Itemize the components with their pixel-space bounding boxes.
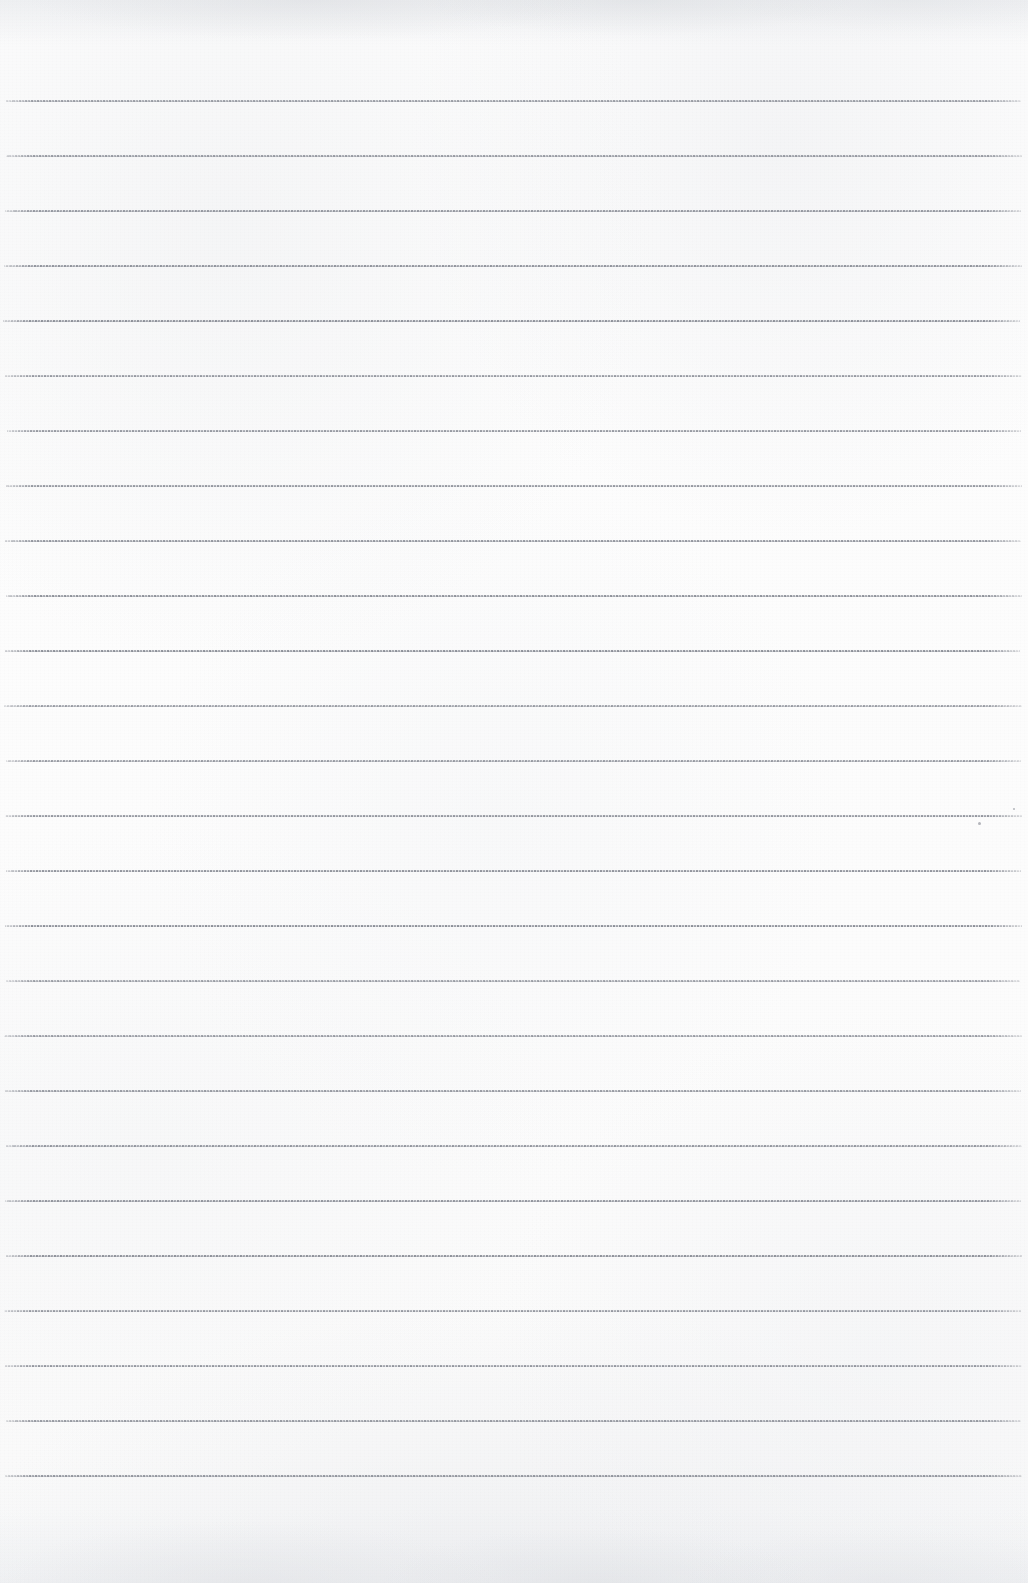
ruled-line-halo bbox=[6, 1256, 1022, 1257]
ruled-line bbox=[6, 485, 1022, 487]
ruled-line bbox=[5, 815, 1022, 817]
ruled-line-halo bbox=[6, 1421, 1021, 1422]
ruled-line bbox=[6, 155, 1022, 157]
ruled-line-ink bbox=[6, 980, 1020, 982]
ruled-line-halo bbox=[6, 761, 1021, 762]
ruled-line-halo bbox=[6, 596, 1022, 597]
ruled-line-ink bbox=[6, 760, 1021, 762]
ruled-line bbox=[5, 925, 1022, 927]
ruled-line-ink bbox=[5, 540, 1021, 542]
ruled-line bbox=[6, 760, 1021, 762]
ruled-line-halo bbox=[5, 651, 1020, 652]
ruled-line bbox=[6, 1255, 1022, 1257]
ruled-line-halo bbox=[5, 541, 1021, 542]
ruled-line bbox=[5, 210, 1021, 212]
ruled-line-halo bbox=[5, 1366, 1022, 1367]
ruled-line-halo bbox=[7, 431, 1021, 432]
ruled-line-ink bbox=[4, 1310, 1021, 1312]
ruled-line-halo bbox=[6, 101, 1021, 102]
ruled-line-ink bbox=[6, 1420, 1021, 1422]
ruled-line bbox=[6, 595, 1022, 597]
ruled-line-ink bbox=[5, 650, 1020, 652]
ruled-line-halo bbox=[6, 871, 1021, 872]
ruled-line bbox=[7, 430, 1021, 432]
ruled-line-halo bbox=[5, 1201, 1021, 1202]
ruled-line-halo bbox=[4, 266, 1022, 267]
ruled-line-ink bbox=[3, 320, 1020, 322]
ruled-line-ink bbox=[5, 925, 1022, 927]
ruled-line-ink bbox=[4, 705, 1022, 707]
ruled-line-ink bbox=[6, 485, 1022, 487]
ruled-line-halo bbox=[5, 926, 1022, 927]
ruled-line-halo bbox=[6, 486, 1022, 487]
ruled-line bbox=[3, 320, 1020, 322]
ruled-line-halo bbox=[6, 1146, 1022, 1147]
ruled-line-halo bbox=[5, 1091, 1021, 1092]
ruled-line-ink bbox=[6, 100, 1021, 102]
ruled-line-ink bbox=[7, 430, 1021, 432]
paper-grain-texture bbox=[0, 0, 1028, 1583]
ruled-line bbox=[5, 1200, 1021, 1202]
ruled-line bbox=[4, 1035, 1022, 1037]
ruled-line-ink bbox=[4, 1035, 1022, 1037]
ruled-line-halo bbox=[3, 321, 1020, 322]
ruled-line-ink bbox=[5, 210, 1021, 212]
ruled-line bbox=[6, 1145, 1022, 1147]
ruled-line-halo bbox=[4, 1036, 1022, 1037]
ruled-line-halo bbox=[6, 156, 1022, 157]
bottom-edge-scan-shading bbox=[0, 1511, 1028, 1583]
ruled-line-ink bbox=[6, 870, 1021, 872]
ruled-line bbox=[6, 1420, 1021, 1422]
scan-speck bbox=[1013, 808, 1015, 810]
ruled-line-ink bbox=[5, 1475, 1022, 1477]
ruled-line-ink bbox=[6, 155, 1022, 157]
ruled-line-ink bbox=[5, 815, 1022, 817]
ruled-line bbox=[5, 650, 1020, 652]
ruled-line-halo bbox=[5, 376, 1022, 377]
ruled-line-ink bbox=[5, 1365, 1022, 1367]
ruled-line bbox=[6, 100, 1021, 102]
scan-speck bbox=[978, 822, 981, 825]
ruled-line-halo bbox=[6, 981, 1020, 982]
ruled-line-ink bbox=[4, 265, 1022, 267]
ruled-line-halo bbox=[5, 211, 1021, 212]
ruled-line bbox=[5, 1475, 1022, 1477]
ruled-line-halo bbox=[5, 816, 1022, 817]
ruled-line bbox=[4, 705, 1022, 707]
ruled-line-ink bbox=[6, 595, 1022, 597]
ruled-line-ink bbox=[5, 375, 1022, 377]
ruled-line bbox=[5, 540, 1021, 542]
top-edge-scan-shading bbox=[0, 0, 1028, 46]
ruled-line bbox=[4, 1310, 1021, 1312]
ruled-line-ink bbox=[6, 1255, 1022, 1257]
ruled-line-halo bbox=[5, 1476, 1022, 1477]
ruled-line-ink bbox=[5, 1200, 1021, 1202]
ruled-line bbox=[5, 1090, 1021, 1092]
ruled-line bbox=[6, 980, 1020, 982]
ruled-line-ink bbox=[6, 1145, 1022, 1147]
ruled-line-ink bbox=[5, 1090, 1021, 1092]
ruled-line bbox=[5, 375, 1022, 377]
scanned-page bbox=[0, 0, 1028, 1583]
ruled-line bbox=[5, 1365, 1022, 1367]
ruled-line bbox=[6, 870, 1021, 872]
ruled-line bbox=[4, 265, 1022, 267]
ruled-line-halo bbox=[4, 1311, 1021, 1312]
ruled-line-halo bbox=[4, 706, 1022, 707]
